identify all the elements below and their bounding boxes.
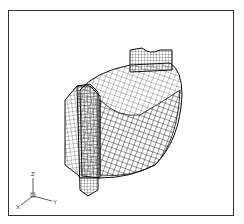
axis-label-y: Y [53,199,57,205]
axis-label-z: Z [31,171,35,177]
axis-triad: Z Y X [16,171,57,210]
mesh-body [65,48,182,196]
mesh-drawing: Z Y X [0,0,244,224]
axis-label-x: X [16,204,20,210]
